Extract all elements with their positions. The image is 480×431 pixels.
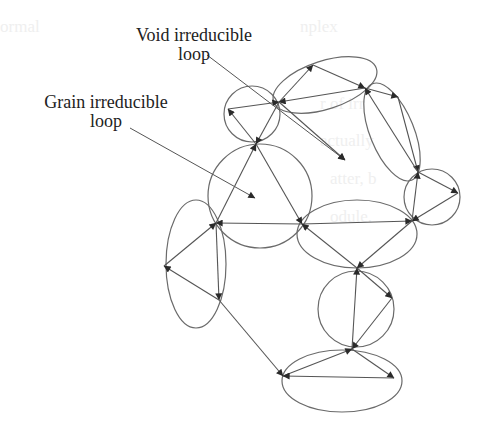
void-label-line1: Void irreducible — [118, 26, 270, 45]
directed-edge — [357, 268, 392, 298]
directed-edge — [228, 109, 256, 144]
directed-edge — [352, 268, 357, 349]
loop-bottom-ellipse — [282, 350, 402, 412]
loop-grain-large — [208, 144, 312, 248]
grain-label-line1: Grain irreducible — [26, 93, 186, 112]
directed-edge — [219, 300, 283, 376]
directed-edge — [256, 144, 302, 224]
grain-label-line2: loop — [26, 112, 186, 131]
loop-top-ellipse — [266, 45, 384, 124]
directed-edge — [279, 65, 313, 102]
directed-edge — [279, 102, 345, 160]
directed-edge — [302, 221, 412, 224]
directed-edge — [365, 88, 418, 172]
void-irreducible-loop-label: Void irreducible loop — [118, 26, 270, 64]
directed-edge — [164, 223, 216, 266]
edges-group — [164, 65, 458, 378]
directed-edge — [313, 65, 365, 88]
directed-edge — [216, 144, 256, 223]
directed-edge — [164, 266, 219, 300]
directed-edge — [302, 224, 357, 268]
void-label-line2: loop — [118, 45, 270, 64]
grain-irreducible-loop-label: Grain irreducible loop — [26, 93, 186, 131]
void-leader — [207, 55, 345, 160]
directed-edge — [418, 172, 458, 193]
directed-edge — [216, 223, 302, 224]
directed-edge — [216, 223, 219, 300]
loops-group — [166, 45, 460, 412]
grain-leader — [130, 128, 255, 198]
directed-edge — [398, 97, 418, 172]
irreducible-loop-diagram — [0, 0, 480, 431]
directed-edge — [352, 349, 394, 378]
directed-edge — [283, 376, 394, 378]
directed-edge — [228, 102, 279, 109]
directed-edge — [352, 298, 392, 349]
loop-left-ellipse — [166, 200, 226, 328]
directed-edge — [357, 221, 412, 268]
